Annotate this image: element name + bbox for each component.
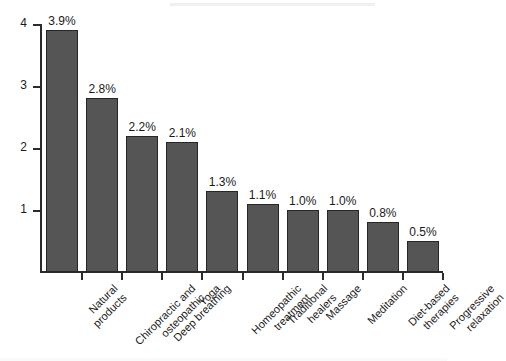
bar bbox=[86, 98, 118, 272]
bar bbox=[126, 136, 158, 272]
bar bbox=[206, 191, 238, 272]
bar bbox=[287, 210, 319, 272]
bar-value-label: 2.1% bbox=[160, 127, 204, 140]
y-axis-tick-label: 2 bbox=[20, 140, 27, 154]
bar-value-label: 0.8% bbox=[361, 207, 405, 220]
bar bbox=[166, 142, 198, 272]
bar-value-label: 1.1% bbox=[241, 189, 285, 202]
bar bbox=[407, 241, 439, 272]
x-axis-label: Natural products bbox=[81, 282, 129, 330]
x-axis-tick bbox=[282, 273, 284, 280]
y-axis-line bbox=[40, 24, 42, 273]
bar-value-label: 3.9% bbox=[40, 15, 84, 28]
bar-value-label: 2.8% bbox=[80, 83, 124, 96]
x-axis-label: Meditation bbox=[365, 282, 410, 327]
y-axis-tick: 2 bbox=[33, 148, 40, 150]
x-axis-tick bbox=[442, 273, 444, 280]
bar-value-label: 2.2% bbox=[120, 121, 164, 134]
y-axis-tick: 1 bbox=[33, 210, 40, 212]
bar-value-label: 1.0% bbox=[281, 195, 325, 208]
x-axis-tick bbox=[161, 273, 163, 280]
y-axis-tick: 3 bbox=[33, 86, 40, 88]
bar bbox=[247, 204, 279, 272]
y-axis-tick-label: 3 bbox=[20, 78, 27, 92]
bar-value-label: 1.0% bbox=[321, 195, 365, 208]
y-axis-tick-label: 1 bbox=[20, 202, 27, 216]
bar bbox=[46, 30, 78, 272]
y-axis-tick-label: 4 bbox=[20, 16, 27, 30]
bar bbox=[367, 222, 399, 272]
bar-value-label: 1.3% bbox=[200, 176, 244, 189]
x-axis-tick bbox=[402, 273, 404, 280]
x-axis-label: Progressive relaxation bbox=[447, 282, 506, 341]
x-axis-tick bbox=[201, 273, 203, 280]
bar bbox=[327, 210, 359, 272]
x-axis-tick bbox=[242, 273, 244, 280]
y-axis-tick: 4 bbox=[33, 24, 40, 26]
x-axis-tick bbox=[81, 273, 83, 280]
x-axis-tick bbox=[362, 273, 364, 280]
x-axis-tick bbox=[121, 273, 123, 280]
bar-value-label: 0.5% bbox=[401, 226, 445, 239]
x-axis-tick bbox=[322, 273, 324, 280]
